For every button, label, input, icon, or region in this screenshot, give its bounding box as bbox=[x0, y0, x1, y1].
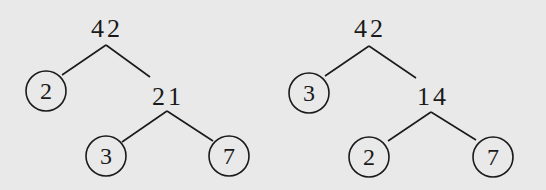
prime-label: 2 bbox=[363, 144, 375, 170]
factor-tree-right: 4214327 bbox=[289, 14, 513, 177]
prime-label: 3 bbox=[100, 143, 112, 169]
tree-edge bbox=[167, 111, 213, 141]
tree-edge bbox=[369, 46, 416, 78]
prime-leaf-node: 3 bbox=[289, 73, 329, 113]
tree-edge bbox=[62, 45, 106, 75]
prime-label: 7 bbox=[223, 143, 235, 169]
prime-leaf-node: 7 bbox=[209, 136, 249, 176]
factor-tree-left: 4221237 bbox=[26, 14, 249, 176]
root-node-label: 42 bbox=[354, 14, 386, 43]
tree-edge bbox=[431, 112, 476, 140]
prime-label: 3 bbox=[303, 80, 315, 106]
factor-tree-diagram: 42212374214327 bbox=[0, 0, 546, 190]
root-node-label: 42 bbox=[91, 14, 123, 43]
prime-leaf-node: 2 bbox=[26, 71, 66, 111]
composite-node-label: 21 bbox=[152, 82, 184, 111]
tree-edge bbox=[106, 45, 150, 77]
prime-leaf-node: 7 bbox=[473, 137, 513, 177]
prime-label: 2 bbox=[40, 78, 52, 104]
tree-edge bbox=[388, 112, 431, 141]
prime-leaf-node: 2 bbox=[349, 137, 389, 177]
tree-edge bbox=[325, 46, 369, 76]
composite-node-label: 14 bbox=[417, 82, 449, 111]
prime-label: 7 bbox=[487, 144, 499, 170]
prime-leaf-node: 3 bbox=[86, 136, 126, 176]
tree-edge bbox=[122, 111, 167, 142]
